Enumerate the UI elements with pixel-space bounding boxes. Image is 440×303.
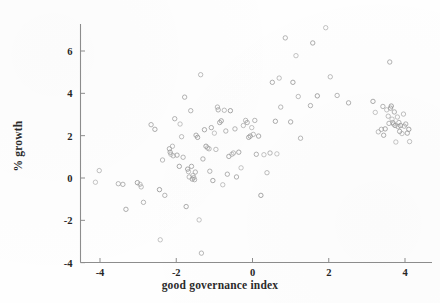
data-point (199, 251, 203, 255)
axis-ticks (81, 51, 406, 263)
data-point (186, 169, 190, 173)
data-point (193, 170, 197, 174)
data-point (407, 139, 411, 143)
y-tick-label: -2 (51, 215, 73, 226)
data-point (279, 105, 283, 109)
data-point (259, 193, 263, 197)
data-point (141, 200, 145, 204)
data-point (224, 129, 228, 133)
data-point (209, 125, 213, 129)
data-point (268, 151, 272, 155)
data-point (198, 73, 202, 77)
data-point (97, 168, 101, 172)
data-point (283, 36, 287, 40)
data-point (253, 118, 257, 122)
y-axis-label: % growth (12, 106, 24, 186)
data-point (256, 134, 260, 138)
data-point (373, 110, 377, 114)
data-point (386, 114, 390, 118)
data-point (288, 120, 292, 124)
data-points (93, 26, 412, 256)
data-point (163, 193, 167, 197)
data-point (189, 108, 193, 112)
data-point (298, 136, 302, 140)
data-point (275, 152, 279, 156)
data-point (208, 169, 212, 173)
data-point (311, 41, 315, 45)
data-point (254, 152, 258, 156)
data-point (181, 155, 185, 159)
data-point (270, 80, 274, 84)
x-tick-label: 2 (326, 267, 331, 278)
data-point (237, 150, 241, 154)
y-tick-label: 6 (51, 46, 73, 57)
data-point (395, 115, 399, 119)
data-point (160, 158, 164, 162)
data-point (265, 171, 269, 175)
data-point (222, 108, 226, 112)
x-axis-label: good governance index (0, 279, 440, 291)
axes (81, 24, 433, 263)
data-point (392, 110, 396, 114)
data-point (211, 178, 215, 182)
data-point (170, 144, 174, 148)
data-point (189, 164, 193, 168)
scatter-plot-figure: -4-2024-4-20246 good governance index % … (0, 0, 440, 303)
data-point (381, 104, 385, 108)
data-point (296, 94, 300, 98)
data-point (277, 76, 281, 80)
y-tick-label: 2 (51, 130, 73, 141)
data-point (346, 101, 350, 105)
data-point (308, 103, 312, 107)
data-point (178, 122, 182, 126)
data-point (179, 135, 183, 139)
data-point (201, 157, 205, 161)
y-tick-label: 0 (51, 173, 73, 184)
data-point (262, 153, 266, 157)
data-point (184, 204, 188, 208)
data-point (182, 95, 186, 99)
data-point (149, 122, 153, 126)
data-point (158, 238, 162, 242)
data-point (324, 26, 328, 30)
data-point (233, 127, 237, 131)
data-point (394, 140, 398, 144)
data-point (216, 108, 220, 112)
data-point (291, 80, 295, 84)
data-point (234, 175, 238, 179)
y-tick-label: -4 (51, 257, 73, 268)
x-tick-label: 0 (250, 267, 255, 278)
data-point (401, 112, 405, 116)
data-point (197, 218, 201, 222)
data-point (121, 182, 125, 186)
data-point (315, 94, 319, 98)
y-tick-label: 4 (51, 88, 73, 99)
data-point (173, 117, 177, 121)
x-tick-label: -4 (96, 267, 105, 278)
data-point (371, 99, 375, 103)
data-point (116, 182, 120, 186)
data-point (153, 127, 157, 131)
data-point (177, 164, 181, 168)
data-point (294, 53, 298, 57)
data-point (93, 180, 97, 184)
data-point (202, 128, 206, 132)
data-point (407, 127, 411, 131)
data-point (214, 147, 218, 151)
data-point (221, 183, 225, 187)
data-point (228, 108, 232, 112)
x-tick-label: 4 (402, 267, 407, 278)
data-point (273, 119, 277, 123)
x-tick-label: -2 (172, 267, 181, 278)
data-point (250, 125, 254, 129)
data-point (124, 207, 128, 211)
data-point (157, 187, 161, 191)
data-point (239, 166, 243, 170)
data-point (335, 93, 339, 97)
data-point (212, 131, 216, 135)
data-point (328, 75, 332, 79)
data-point (225, 172, 229, 176)
data-point (388, 60, 392, 64)
data-point (241, 123, 245, 127)
data-point (381, 133, 385, 137)
